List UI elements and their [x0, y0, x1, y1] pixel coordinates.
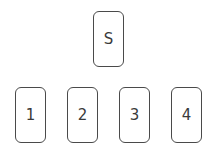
card-4: 4 [171, 87, 202, 143]
card-1-label: 1 [26, 106, 36, 124]
card-3-label: 3 [130, 106, 140, 124]
card-1: 1 [15, 87, 46, 143]
card-s-label: S [104, 30, 114, 48]
card-3: 3 [119, 87, 150, 143]
card-4-label: 4 [182, 106, 192, 124]
card-s: S [93, 11, 124, 67]
card-2-label: 2 [78, 106, 88, 124]
card-2: 2 [67, 87, 98, 143]
